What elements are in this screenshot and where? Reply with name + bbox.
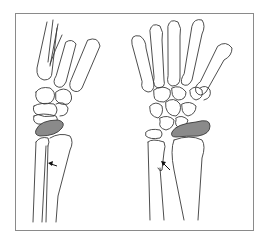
wrist-illustration [0,0,267,244]
lateral-view [33,20,100,222]
arrow-posteroanterior [164,164,170,170]
posteroanterior-view [132,20,232,220]
